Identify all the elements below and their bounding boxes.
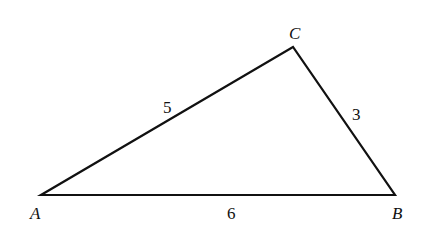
side-label-cb: 3 (352, 105, 361, 124)
vertex-label-b: B (392, 204, 403, 223)
triangle-diagram: A B C 5 3 6 (0, 0, 431, 241)
side-label-ab: 6 (227, 204, 236, 223)
side-label-ac: 5 (163, 98, 172, 117)
triangle-abc (41, 47, 395, 195)
vertex-label-a: A (29, 204, 41, 223)
vertex-label-c: C (289, 24, 301, 43)
